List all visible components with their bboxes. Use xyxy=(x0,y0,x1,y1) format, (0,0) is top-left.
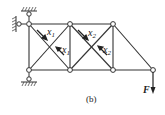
top-pin-support xyxy=(21,7,37,21)
member-label-x2-bottom: x2 xyxy=(102,44,111,57)
left-pin-support xyxy=(12,16,26,32)
bottom-pin-support xyxy=(21,73,37,86)
member-label-x1-top: x1 xyxy=(46,26,55,39)
member-label-x2-top: x2 xyxy=(87,27,96,40)
member-label-x1-bottom: x1 xyxy=(61,44,70,57)
load-arrow xyxy=(151,72,156,94)
force-label: F xyxy=(142,84,150,95)
figure-caption: (b) xyxy=(86,94,97,104)
truss-diagram: x1 x1 x2 x2 F (b) xyxy=(0,0,165,115)
